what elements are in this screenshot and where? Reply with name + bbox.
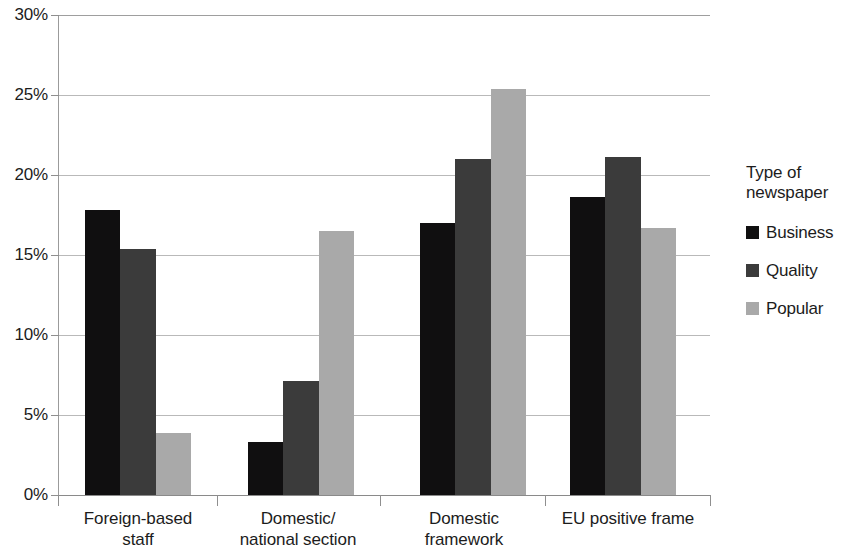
y-axis-tick-labels: 0%5%10%15%20%25%30% xyxy=(0,0,48,557)
x-axis-tick xyxy=(545,495,546,506)
bar-popular-2 xyxy=(491,89,526,495)
bar-popular-0 xyxy=(156,433,191,495)
y-axis-tick-label: 30% xyxy=(0,6,48,23)
x-axis-tick xyxy=(710,495,711,506)
y-axis-tick xyxy=(51,415,59,416)
legend-label: Popular xyxy=(766,300,823,317)
bar-popular-3 xyxy=(641,228,676,495)
legend-swatch-icon xyxy=(746,264,759,277)
y-axis-tick xyxy=(51,175,59,176)
bar-popular-1 xyxy=(319,231,354,495)
x-axis-label-line: framework xyxy=(425,530,503,549)
legend-label: Business xyxy=(766,224,833,241)
y-axis-tick xyxy=(51,15,59,16)
plot-area xyxy=(58,15,710,495)
gridline xyxy=(58,495,710,496)
bar-business-3 xyxy=(570,197,605,495)
y-axis-tick xyxy=(51,255,59,256)
legend-item-business[interactable]: Business xyxy=(746,223,842,241)
x-axis-label-line: Foreign-based xyxy=(84,509,192,528)
x-axis-label-line: EU positive frame xyxy=(562,509,694,528)
bar-chart: 0%5%10%15%20%25%30% Type of newspaper Bu… xyxy=(0,0,842,557)
x-axis-label-line: Domestic xyxy=(429,509,499,528)
bar-business-1 xyxy=(248,442,283,495)
y-axis-tick-label: 10% xyxy=(0,326,48,343)
bar-quality-0 xyxy=(120,249,155,495)
x-axis-label-line: Domestic/ xyxy=(261,509,336,528)
y-axis-tick-label: 5% xyxy=(0,406,48,423)
y-axis-tick xyxy=(51,95,59,96)
bar-business-2 xyxy=(420,223,455,495)
bar-group xyxy=(570,15,676,495)
bar-group xyxy=(85,15,191,495)
x-axis-label-line: staff xyxy=(122,530,153,549)
legend-swatch-icon xyxy=(746,302,759,315)
x-axis-label-3: EU positive frame xyxy=(528,508,728,529)
x-axis-tick xyxy=(380,495,381,506)
x-axis-tick xyxy=(58,495,59,506)
bar-business-0 xyxy=(85,210,120,495)
legend-label: Quality xyxy=(766,262,818,279)
y-axis-tick-label: 0% xyxy=(0,486,48,503)
bar-group xyxy=(248,15,354,495)
legend: Type of newspaper BusinessQualityPopular xyxy=(746,163,842,317)
x-axis-tick xyxy=(217,495,218,506)
y-axis-tick-label: 15% xyxy=(0,246,48,263)
legend-item-quality[interactable]: Quality xyxy=(746,261,842,279)
legend-swatch-icon xyxy=(746,226,759,239)
y-axis-tick-label: 25% xyxy=(0,86,48,103)
legend-item-popular[interactable]: Popular xyxy=(746,299,842,317)
bar-group xyxy=(420,15,526,495)
bar-quality-3 xyxy=(605,157,640,495)
legend-title: Type of newspaper xyxy=(746,163,842,203)
bar-quality-2 xyxy=(455,159,490,495)
legend-items: BusinessQualityPopular xyxy=(746,223,842,317)
x-axis-label-line: national section xyxy=(240,530,357,549)
y-axis-tick-label: 20% xyxy=(0,166,48,183)
y-axis-tick xyxy=(51,335,59,336)
bar-quality-1 xyxy=(283,381,318,495)
